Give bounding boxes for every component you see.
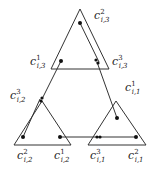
- node-c3-i1b: [98, 135, 101, 138]
- node-c2-i1: [134, 135, 138, 139]
- label-c2-i1: c2i,1: [128, 150, 144, 161]
- label-c1-i1: c1i,1: [125, 82, 141, 93]
- node-c3-i1: [95, 135, 98, 138]
- edge-c3i2-c2i2: [23, 99, 40, 137]
- label-c3-i2: c3i,2: [10, 90, 26, 101]
- edge-c3i3-c1i1: [97, 62, 117, 118]
- label-c2-i3: c2i,3: [94, 10, 110, 21]
- node-c1-i2: [58, 135, 62, 139]
- label-c2-i2: c2i,2: [17, 150, 33, 161]
- node-c2-i3: [78, 21, 82, 25]
- node-c3-i3b: [96, 61, 99, 64]
- label-c3-i3: c3i,3: [112, 56, 128, 67]
- node-c1-i3: [59, 59, 63, 63]
- node-c1-i1: [115, 116, 119, 120]
- node-c3-i2b: [39, 99, 42, 102]
- label-c1-i3: c1i,3: [30, 56, 46, 67]
- node-c3-i2: [40, 96, 43, 99]
- label-c3-i1: c3i,1: [90, 150, 106, 161]
- node-c3-i3: [94, 58, 97, 61]
- node-c2-i2: [21, 135, 25, 139]
- label-c1-i2: c1i,2: [54, 150, 70, 161]
